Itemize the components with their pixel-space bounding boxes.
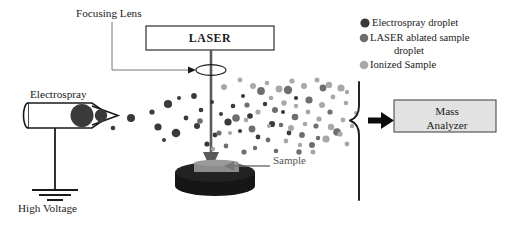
- focusing-lens-leader-arrow: [188, 67, 196, 74]
- legend-dot-laser-ablated-droplet: [360, 34, 369, 43]
- droplet: [288, 125, 294, 131]
- droplet: [184, 116, 189, 121]
- droplet: [345, 90, 349, 94]
- droplet: [255, 109, 260, 114]
- droplet: [221, 84, 227, 90]
- droplet: [287, 131, 292, 136]
- droplet: [216, 130, 221, 135]
- droplet: [337, 131, 342, 136]
- droplet: [274, 149, 279, 154]
- droplet-plume: [98, 78, 358, 155]
- droplet: [228, 131, 232, 135]
- droplet: [322, 135, 329, 142]
- focusing-lens-label: Focusing Lens: [76, 8, 142, 20]
- electrospray-label: Electrospray: [30, 89, 87, 101]
- droplet: [305, 96, 312, 103]
- droplet: [149, 109, 154, 114]
- droplet: [257, 87, 265, 95]
- droplet: [294, 104, 298, 108]
- droplet: [267, 124, 271, 128]
- droplet: [250, 83, 256, 89]
- legend-dot-electrospray-droplet: [360, 18, 369, 27]
- droplet: [266, 138, 271, 143]
- droplet: [224, 118, 231, 125]
- droplet: [279, 123, 284, 128]
- droplet: [298, 143, 302, 147]
- legend-label-laser-ablated-droplet-line2: droplet: [394, 45, 424, 56]
- droplet: [281, 100, 287, 106]
- droplet: [303, 122, 308, 127]
- droplet: [197, 118, 203, 124]
- droplet: [272, 107, 278, 113]
- droplet: [256, 135, 261, 140]
- droplet: [341, 118, 346, 123]
- droplet: [284, 139, 289, 144]
- droplet: [211, 147, 215, 151]
- droplet: [269, 96, 274, 101]
- droplet: [263, 102, 267, 106]
- capillary-left-cap: [24, 103, 29, 128]
- droplet: [292, 114, 299, 121]
- droplet: [98, 119, 102, 123]
- droplet: [320, 85, 327, 92]
- legend-dot-ionized-sample: [360, 61, 369, 70]
- droplet: [238, 129, 242, 133]
- droplet: [301, 83, 307, 89]
- droplet: [249, 126, 256, 133]
- droplet: [294, 96, 298, 100]
- legend-label-electrospray-droplet: Electrospray droplet: [372, 17, 458, 28]
- droplet: [244, 102, 249, 107]
- droplet: [337, 84, 344, 91]
- droplet: [219, 112, 223, 116]
- droplet: [191, 93, 197, 99]
- droplet: [194, 123, 200, 129]
- legend-label-ionized-sample: Ionized Sample: [370, 59, 436, 70]
- droplet: [316, 136, 320, 140]
- droplet: [315, 78, 320, 83]
- mass-analyzer-label: Mass Analyzer: [398, 104, 496, 132]
- droplet: [177, 96, 181, 100]
- droplet: [265, 81, 270, 86]
- droplet: [162, 138, 166, 142]
- droplet: [241, 149, 246, 154]
- collection-bracket: [350, 82, 359, 200]
- droplet: [344, 101, 349, 106]
- droplet: [281, 110, 285, 114]
- droplet: [204, 141, 209, 146]
- droplet: [326, 82, 332, 88]
- droplet: [313, 123, 318, 128]
- laser-label: LASER: [146, 32, 274, 44]
- inlet-arrow-head: [381, 112, 394, 129]
- droplet: [164, 100, 172, 108]
- droplet: [244, 118, 249, 123]
- droplet: [289, 78, 294, 83]
- droplet: [238, 78, 243, 83]
- droplet: [327, 109, 332, 114]
- droplet: [345, 142, 350, 147]
- sample-label: Sample: [273, 155, 306, 167]
- droplet: [231, 104, 236, 109]
- droplet: [241, 94, 245, 98]
- droplet: [253, 146, 257, 150]
- legend-label-laser-ablated-droplet: LASER ablated sample: [370, 32, 469, 43]
- droplet: [311, 150, 316, 155]
- droplet: [306, 110, 311, 115]
- droplet: [319, 102, 325, 108]
- high-voltage-label: High Voltage: [18, 203, 77, 215]
- droplet: [247, 113, 253, 119]
- droplet: [154, 123, 161, 130]
- droplet: [328, 124, 334, 130]
- droplet: [172, 129, 181, 138]
- droplet: [284, 86, 292, 94]
- figure-canvas: Focusing Lens LASER Electrospray High Vo…: [0, 0, 507, 226]
- mass-analyzer-label-line1: Mass: [398, 104, 496, 118]
- droplet: [316, 116, 321, 121]
- droplet: [299, 132, 305, 138]
- droplet: [350, 124, 354, 128]
- droplet: [232, 114, 240, 122]
- droplet: [210, 100, 214, 104]
- droplet: [276, 86, 283, 93]
- droplet: [331, 95, 336, 100]
- droplet: [309, 142, 315, 148]
- droplet: [111, 126, 116, 131]
